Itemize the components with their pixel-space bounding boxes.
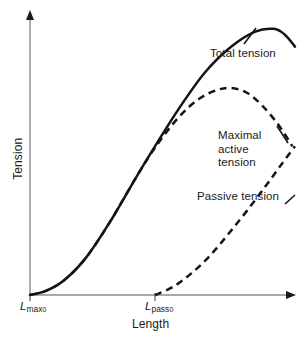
x-axis-arrowhead <box>286 291 296 299</box>
leader-line-passive <box>285 195 295 204</box>
label-total-tension: Total tension <box>210 47 276 61</box>
x-tick-label-lmax0: Lmax0 <box>20 300 46 314</box>
label-active-line-1: Maximal <box>218 129 262 141</box>
y-axis-title: Tension <box>12 124 26 194</box>
y-axis-arrowhead <box>26 10 34 20</box>
tick0-subsub: 0 <box>42 306 46 313</box>
tick1-sub: pass <box>151 304 169 314</box>
label-passive-tension: Passive tension <box>197 190 279 204</box>
x-axis-title: Length <box>132 318 169 332</box>
label-active-line-3: tension <box>218 156 256 168</box>
length-tension-figure: Total tension Maximalactivetension Passi… <box>0 0 307 340</box>
label-active-line-2: active <box>218 143 249 155</box>
label-maximal-active-tension: Maximalactivetension <box>218 129 262 170</box>
tick0-sub: max <box>26 304 42 314</box>
x-tick-label-lpass0: Lpass0 <box>145 300 173 314</box>
tick1-subsub: 0 <box>169 306 173 313</box>
